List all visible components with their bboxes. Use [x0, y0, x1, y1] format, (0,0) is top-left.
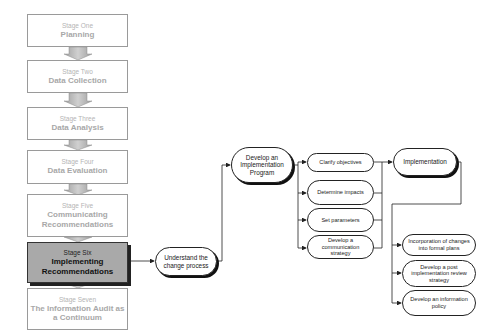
stage-title: Data Evaluation: [47, 166, 107, 176]
stage-number: Stage Two: [62, 68, 93, 76]
stage-four-box: Stage Four Data Evaluation: [27, 150, 128, 184]
develop-implementation-program-node: Develop an Implementation Program: [231, 147, 293, 183]
stage-title: Data Collection: [48, 76, 106, 86]
post-implementation-review-node: Develop a post implementation review str…: [402, 260, 476, 287]
clarify-objectives-node: Clarify objectives: [307, 153, 374, 172]
information-policy-node: Develop an information policy: [402, 290, 476, 316]
stage-number: Stage One: [62, 22, 93, 30]
implementation-node: Implementation: [393, 148, 457, 176]
incorporation-of-changes-node: Incorporation of changes into formal pla…: [402, 234, 476, 256]
stage-number: Stage Six: [64, 249, 92, 257]
stage-five-box: Stage Five Communicating Recommendations: [27, 194, 128, 237]
stage-number: Stage Seven: [59, 296, 96, 304]
understand-change-process-node: Understand the change process: [155, 247, 217, 276]
develop-communication-strategy-node: Develop a communication strategy: [307, 235, 374, 259]
stage-title: Implementing Recommendations: [38, 257, 118, 276]
stage-number: Stage Four: [61, 158, 93, 166]
stage-title: Communicating Recommendations: [38, 210, 118, 229]
stage-title: Data Analysis: [51, 123, 103, 133]
stage-number: Stage Five: [62, 202, 93, 210]
stage-title: The Information Audit as a Continuum: [30, 304, 126, 323]
stage-three-box: Stage Three Data Analysis: [27, 107, 128, 140]
stage-six-box-active: Stage Six Implementing Recommendations: [27, 242, 128, 283]
stage-seven-box: Stage Seven The Information Audit as a C…: [27, 288, 128, 330]
implementation-diagram: Stage One Planning Stage Two Data Collec…: [0, 0, 499, 336]
stage-number: Stage Three: [60, 115, 96, 123]
determine-impacts-node: Determine impacts: [307, 180, 374, 205]
set-parameters-node: Set parameters: [307, 208, 374, 232]
stage-one-box: Stage One Planning: [27, 14, 128, 47]
stage-title: Planning: [61, 30, 95, 40]
stage-two-box: Stage Two Data Collection: [27, 60, 128, 93]
